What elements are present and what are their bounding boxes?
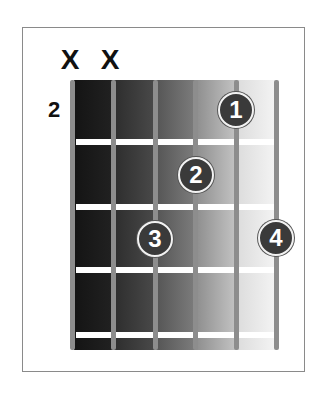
fretboard-column-3 bbox=[156, 80, 196, 350]
muted-string-5-marker: X bbox=[98, 46, 122, 74]
finger-2-dot: 2 bbox=[178, 157, 214, 193]
string-6 bbox=[70, 80, 75, 350]
string-5 bbox=[111, 80, 116, 350]
finger-1-dot: 1 bbox=[218, 92, 254, 128]
fretboard-column-2 bbox=[115, 80, 156, 350]
start-fret-label: 2 bbox=[48, 99, 60, 121]
fret-line-3 bbox=[76, 267, 276, 273]
string-4 bbox=[153, 80, 158, 350]
fret-line-1 bbox=[76, 139, 276, 145]
fret-line-4 bbox=[76, 332, 276, 338]
finger-4-dot: 4 bbox=[258, 220, 294, 256]
fretboard-column-1 bbox=[74, 80, 115, 350]
muted-string-6-marker: X bbox=[58, 46, 82, 74]
fretboard: 1 2 3 4 bbox=[72, 80, 276, 350]
string-1 bbox=[274, 80, 279, 350]
fret-line-2 bbox=[76, 204, 276, 210]
finger-3-dot: 3 bbox=[137, 221, 173, 257]
string-3 bbox=[193, 80, 198, 350]
